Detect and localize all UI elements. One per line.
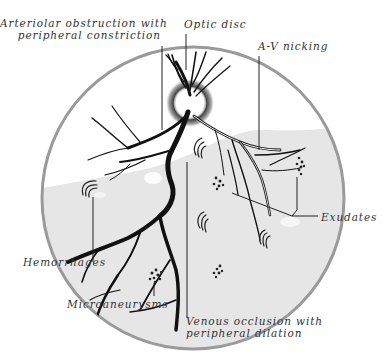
label-arteriolar-line1: Arteriolar obstruction with bbox=[0, 17, 161, 29]
fundus-diagram: Arteriolar obstruction with peripheral c… bbox=[0, 0, 390, 352]
label-optic-disc: Optic disc bbox=[184, 18, 246, 30]
retina-background bbox=[0, 0, 390, 352]
retina-illustration bbox=[0, 0, 390, 352]
label-av-nicking: A-V nicking bbox=[258, 40, 328, 52]
label-exudates: Exudates bbox=[321, 211, 377, 223]
label-venous-line2: peripheral dilation bbox=[186, 327, 323, 339]
label-hemorrhages: Hemorrhages bbox=[23, 256, 106, 268]
label-venous-line1: Venous occlusion with bbox=[186, 315, 323, 327]
label-venous-occlusion: Venous occlusion with peripheral dilatio… bbox=[186, 315, 323, 339]
label-arteriolar-obstruction: Arteriolar obstruction with peripheral c… bbox=[0, 17, 161, 41]
label-microaneurysms: Microaneurysms bbox=[67, 298, 169, 310]
label-arteriolar-line2: peripheral constriction bbox=[0, 29, 161, 41]
